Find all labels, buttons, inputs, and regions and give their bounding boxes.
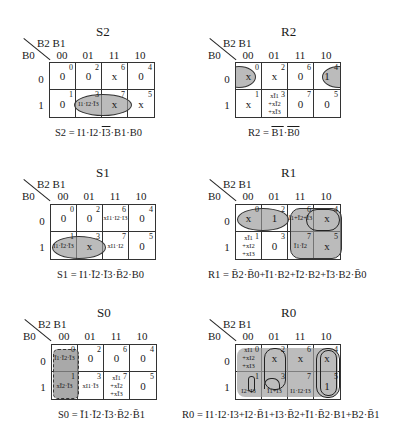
row-header: 0 xyxy=(35,73,47,85)
cell-m5: 50 xyxy=(130,372,156,399)
row-header: 1 xyxy=(221,241,233,253)
kmap-grid: 0Ī1·Ī2·Ī3 20 60 40 1xĪ2·Ī3 3xI1·Ī3 7xĪ1 … xyxy=(51,344,157,400)
cell-m1: 10 xyxy=(50,90,76,117)
kmap-equation: S1 = I1·Ī2·Ī3·B̄2·B0 xyxy=(57,269,144,280)
row-var-label: B0 xyxy=(208,330,221,342)
cell-m6: 6x xyxy=(102,63,128,90)
cell-m1: 1xĪ1 +xI2 +xI3 xyxy=(236,232,262,259)
cell-m7: 7xI1·I2 xyxy=(103,232,129,259)
kmap-title: R0 xyxy=(281,305,296,321)
kmap-r0: R0 B2 B1 B0 00 01 11 10 0 1 0xI1 +xI2 +x… xyxy=(186,281,376,421)
row-header: 0 xyxy=(221,73,233,85)
col-header: 01 xyxy=(261,190,287,202)
row-header: 1 xyxy=(35,99,47,111)
col-header: 10 xyxy=(129,330,155,342)
row-header: 1 xyxy=(36,241,48,253)
row-var-label: B0 xyxy=(22,190,35,202)
cell-m6: 6xI1·I2·I3 xyxy=(103,205,129,232)
col-header: 10 xyxy=(128,190,154,202)
col-header: 00 xyxy=(51,330,77,342)
col-header: 00 xyxy=(49,49,75,61)
row-var-label: B0 xyxy=(23,330,36,342)
row-header: 0 xyxy=(221,215,233,227)
col-header: 01 xyxy=(75,49,101,61)
col-header: 11 xyxy=(101,49,127,61)
col-vars-label: B2 B1 xyxy=(223,37,251,49)
col-vars-label: B2 B1 xyxy=(223,318,251,330)
kmap-grid: 00 20 6x 40 10 3I1·I2·Ī3 7x 5x xyxy=(49,62,155,118)
cell-m7: 70 xyxy=(288,90,314,117)
cell-m2: 20 xyxy=(76,63,102,90)
col-vars-label: B2 B1 xyxy=(38,318,66,330)
kmap-title: R1 xyxy=(281,165,296,181)
col-header: 10 xyxy=(127,49,153,61)
col-header: 00 xyxy=(235,49,261,61)
row-header: 0 xyxy=(37,355,49,367)
cell-m2: 20 xyxy=(78,345,104,372)
kmap-s1: S1 B2 B1 B0 00 01 11 10 0 1 00 20 6xI1·I… xyxy=(0,141,190,281)
cell-m0: 0xI1 +xI2 +xI3 xyxy=(236,345,262,372)
kmap-title: S1 xyxy=(96,165,110,181)
col-header: 00 xyxy=(235,190,261,202)
col-header: 11 xyxy=(103,330,129,342)
col-header: 11 xyxy=(287,330,313,342)
col-vars-label: B2 B1 xyxy=(37,37,65,49)
cell-m4: 40 xyxy=(129,205,155,232)
cell-m0: 00 xyxy=(51,205,77,232)
cell-m2: 2x xyxy=(262,63,288,90)
cell-m5: 50 xyxy=(129,232,155,259)
kmap-equation: S2 = I1·I2·I3·B1·B0 xyxy=(55,127,142,138)
kmap-equation: R0 = I1·I2·I3+I2·B̄1+I3·B̄2+Ī1·B̄2·B1+B2… xyxy=(182,409,380,420)
row-header: 0 xyxy=(221,355,233,367)
col-vars-label: B2 B1 xyxy=(223,178,251,190)
col-header: 01 xyxy=(76,190,102,202)
col-vars-label: B2 B1 xyxy=(37,178,65,190)
cell-m4: 40 xyxy=(130,345,156,372)
cell-m5: 50 xyxy=(314,90,340,117)
cell-m5: 5x xyxy=(128,90,154,117)
kmap-r2: R2 B2 B1 B0 00 01 11 10 0 1 0x 2x 60 41 … xyxy=(186,0,376,140)
cell-m4: 40 xyxy=(128,63,154,90)
col-header: 00 xyxy=(235,330,261,342)
cell-m3: 30 xyxy=(262,232,288,259)
kmap-equation: S0 = Ī1·Ī2·Ī3·B̄2·B̄1 xyxy=(58,409,145,420)
col-header: 10 xyxy=(313,190,339,202)
kmap-grid: 0xI1 +xI2 +xI3 2x 6x 4x 1I2+I3 3Ī1+I3 7I… xyxy=(235,344,341,400)
kmap-s2: S2 B2 B1 B0 00 01 11 10 0 1 00 20 6x 40 … xyxy=(0,0,190,140)
kmap-grid: 0x 2x 60 41 1x 3xĪ1 +xĪ2 +xĪ3 70 50 xyxy=(235,62,341,118)
row-header: 1 xyxy=(221,381,233,393)
col-header: 11 xyxy=(287,49,313,61)
kmap-grid: 0x 21 6Ī1+Ī2+Ī3 4x 1xĪ1 +xI2 +xI3 30 7Ī1… xyxy=(235,204,341,260)
kmap-s0: S0 B2 B1 B0 00 01 11 10 0 1 0Ī1·Ī2·Ī3 20… xyxy=(0,281,190,421)
col-header: 11 xyxy=(287,190,313,202)
kmap-title: S0 xyxy=(97,305,111,321)
col-header: 01 xyxy=(261,49,287,61)
kmap-title: R2 xyxy=(281,24,296,40)
cell-m1: 1x xyxy=(236,90,262,117)
cell-m0: 00 xyxy=(50,63,76,90)
col-header: 10 xyxy=(313,330,339,342)
cell-m2: 20 xyxy=(77,205,103,232)
cell-m6: 60 xyxy=(104,345,130,372)
row-var-label: B0 xyxy=(208,49,221,61)
kmap-title: S2 xyxy=(96,24,110,40)
kmap-r1: R1 B2 B1 B0 00 01 11 10 0 1 0x 21 6Ī1+Ī2… xyxy=(186,141,376,281)
col-header: 10 xyxy=(313,49,339,61)
col-header: 11 xyxy=(102,190,128,202)
row-var-label: B0 xyxy=(208,190,221,202)
cell-m6: 60 xyxy=(288,63,314,90)
cell-m3: 3xĪ1 +xĪ2 +xĪ3 xyxy=(262,90,288,117)
cell-m3: 3xI1·Ī3 xyxy=(78,372,104,399)
row-header: 1 xyxy=(37,381,49,393)
row-header: 1 xyxy=(221,99,233,111)
cell-m7: 7xĪ1 +xĪ2 +xĪ3 xyxy=(104,372,130,399)
kmap-grid: 00 20 6xI1·I2·I3 40 1I1·Ī2·Ī3 3x 7xI1·I2… xyxy=(50,204,156,260)
col-header: 00 xyxy=(50,190,76,202)
row-header: 0 xyxy=(36,215,48,227)
kmap-equation: R1 = B̄2·B̄0+Ī1·B2+Ī2·B2+Ī3·B2·B̄0 xyxy=(208,269,366,280)
kmap-equation: R2 = B1·B0 xyxy=(248,127,299,138)
col-header: 01 xyxy=(261,330,287,342)
row-var-label: B0 xyxy=(22,49,35,61)
col-header: 01 xyxy=(77,330,103,342)
